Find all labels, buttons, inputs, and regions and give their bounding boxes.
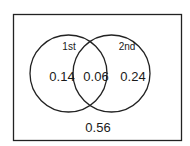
first-set-label: 1st <box>62 41 75 52</box>
first-only-value: 0.14 <box>49 69 74 84</box>
second-set-label: 2nd <box>119 41 136 52</box>
second-only-value: 0.24 <box>120 69 145 84</box>
intersection-value: 0.06 <box>83 69 108 84</box>
outside-value: 0.56 <box>85 120 110 135</box>
